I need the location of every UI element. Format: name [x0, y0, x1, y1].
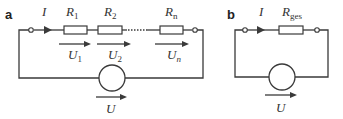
source-voltage-label: U — [276, 100, 287, 115]
resistor-rges-label: Rges — [281, 4, 302, 21]
right-wire — [295, 30, 328, 77]
voltage-u2-arrow-icon — [124, 41, 131, 47]
resistor-r1 — [64, 26, 87, 34]
voltage-source-icon — [269, 64, 295, 90]
voltage-un-arrow-icon — [182, 41, 189, 47]
voltage-un-label: Un — [167, 47, 181, 64]
panel-a: a I R1 R2 Rn U1 U2 Un — [5, 4, 203, 116]
left-wire — [235, 30, 269, 77]
resistor-rn-label: Rn — [164, 4, 178, 21]
terminal-left-icon — [29, 28, 34, 33]
voltage-u2-label: U2 — [108, 47, 122, 64]
current-label: I — [258, 4, 264, 19]
voltage-source-icon — [99, 65, 125, 91]
panel-a-label: a — [5, 7, 13, 22]
left-wire — [19, 30, 99, 78]
terminal-left-icon — [243, 28, 248, 33]
resistor-r2 — [98, 26, 122, 34]
resistor-r2-label: R2 — [103, 4, 116, 21]
voltage-u1-label: U1 — [68, 47, 82, 64]
terminal-right-icon — [193, 28, 198, 33]
source-voltage-arrow-icon — [290, 92, 297, 98]
resistor-r1-label: R1 — [65, 4, 78, 21]
current-arrow-icon — [257, 26, 265, 34]
panel-b: b I Rges U — [227, 4, 328, 115]
resistor-rges — [279, 26, 303, 34]
terminal-right-icon — [315, 28, 320, 33]
voltage-u1-arrow-icon — [84, 41, 91, 47]
current-arrow-icon — [44, 26, 52, 34]
resistor-rn — [160, 26, 183, 34]
current-label: I — [41, 4, 47, 19]
series-circuit-figure: a I R1 R2 Rn U1 U2 Un — [0, 0, 343, 119]
source-voltage-arrow-icon — [120, 94, 127, 100]
source-voltage-label: U — [106, 101, 117, 116]
panel-b-label: b — [227, 7, 235, 22]
right-wire — [125, 30, 203, 78]
